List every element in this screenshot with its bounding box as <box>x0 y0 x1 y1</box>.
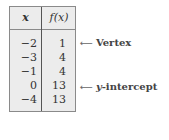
header-x: x <box>10 11 41 24</box>
cell-fx: 13 <box>42 79 66 92</box>
table-header: x f(x) <box>10 7 75 30</box>
cell-x: −1 <box>10 65 37 78</box>
left-arrow-icon: ⟵ <box>80 82 93 92</box>
table-row: −3 4 <box>10 51 75 65</box>
table-row: −1 4 <box>10 65 75 79</box>
table-row: −4 13 <box>10 93 75 107</box>
cell-x: −3 <box>10 51 37 64</box>
cell-x: −4 <box>10 93 37 106</box>
cell-fx: 4 <box>42 65 66 78</box>
vertex-annotation: ⟵Vertex <box>80 37 131 48</box>
intercept-label: -intercept <box>102 81 158 92</box>
cell-fx: 13 <box>42 93 66 106</box>
function-table: x f(x) −2 1 −3 4 −1 4 0 13 −4 13 <box>9 6 76 112</box>
table-row: 0 13 <box>10 79 75 93</box>
vertex-label: Vertex <box>96 37 131 48</box>
header-fx: f(x) <box>42 11 76 24</box>
cell-x: 0 <box>10 79 37 92</box>
y-intercept-annotation: ⟵y-intercept <box>80 81 157 92</box>
cell-x: −2 <box>10 37 37 50</box>
left-arrow-icon: ⟵ <box>80 38 93 48</box>
table-row: −2 1 <box>10 37 75 51</box>
cell-fx: 1 <box>42 37 66 50</box>
cell-fx: 4 <box>42 51 66 64</box>
